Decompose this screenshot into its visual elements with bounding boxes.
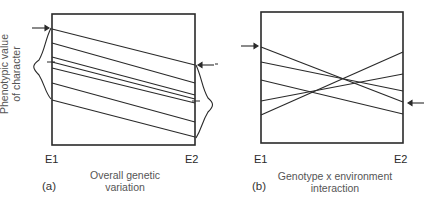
genotype-reaction-line (52, 62, 195, 99)
plot-frame (52, 14, 195, 145)
arrow-left-icon (408, 101, 424, 106)
panel-b-caption-line1: Genotype x environment (270, 170, 400, 182)
panel-a-caption-line1: Overall genetic (80, 169, 170, 181)
panel-a-tag: (a) (42, 180, 56, 192)
genotype-reaction-line (261, 62, 403, 91)
arrow-right-icon (241, 44, 258, 49)
panel-b-plot (261, 12, 403, 143)
panel-b-e2-label: E2 (394, 153, 407, 165)
panel-a-caption: Overall genetic variation (80, 169, 170, 193)
panel-b-tag: (b) (252, 180, 266, 192)
panel-a-e2-label: E2 (185, 153, 198, 165)
panel-b-caption: Genotype x environment interaction (270, 170, 400, 194)
arrow-right-icon (32, 26, 49, 31)
genotype-reaction-line (261, 52, 403, 115)
genotype-reaction-line (52, 68, 195, 103)
panel-b-caption-line2: interaction (270, 182, 400, 194)
panel-b-e1-label: E1 (254, 153, 267, 165)
y-axis-label-line1: Phenotypic value (0, 24, 10, 124)
genotype-reaction-line (52, 29, 195, 65)
y-axis-label: Phenotypic value of character (0, 24, 22, 124)
e1-distribution-curve (34, 28, 51, 99)
panel-a-e1-label: E1 (45, 153, 58, 165)
genotype-reaction-line (52, 100, 195, 137)
arrow-left-icon (198, 63, 214, 68)
panel-a-plot (52, 14, 195, 145)
genotype-reaction-line (261, 47, 403, 102)
panel-a-caption-line2: variation (80, 181, 170, 193)
y-axis-label-line2: of character (10, 24, 22, 124)
